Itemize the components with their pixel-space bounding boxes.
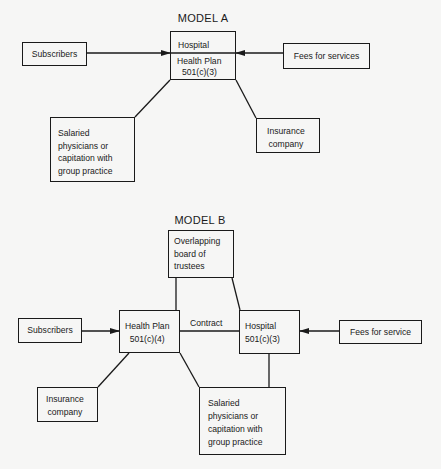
model-b-health-plan-box: Health Plan 501(c)(4)	[119, 310, 180, 353]
insurance-label: Insurance company	[46, 393, 84, 418]
model-b-fees-box: Fees for service	[339, 320, 422, 344]
model-a-title: MODEL A	[178, 12, 229, 24]
model-b-subscribers-box: Subscribers	[18, 318, 82, 343]
health-plan-label: Health Plan	[177, 56, 221, 67]
salaried-label: Salaried physicians or capitation with g…	[208, 397, 262, 449]
model-b-hospital-box: Hospital 501(c)(3)	[239, 310, 300, 354]
model-b-salaried-box: Salaried physicians or capitation with g…	[199, 387, 286, 455]
hospital-label: Hospital 501(c)(3)	[245, 320, 280, 345]
fees-label: Fees for service	[350, 327, 411, 338]
insurance-label: Insurance company	[267, 125, 305, 150]
model-b-title: MODEL B	[174, 214, 225, 226]
contract-label: Contract	[190, 318, 222, 328]
trustees-label: Overlapping board of trustees	[174, 235, 220, 273]
model-a-hospital-healthplan-box: Hospital Health Plan 501(c)(3)	[170, 31, 236, 80]
model-b-insurance-box: Insurance company	[37, 387, 98, 422]
health-plan-label: Health Plan 501(c)(4)	[125, 320, 169, 345]
hospital-label: Hospital	[178, 40, 209, 51]
model-a-salaried-box: Salaried physicians or capitation with g…	[50, 117, 135, 182]
model-a-subscribers-box: Subscribers	[22, 42, 87, 66]
salaried-label: Salaried physicians or capitation with g…	[58, 127, 112, 177]
tax-status-label: 501(c)(3)	[182, 67, 217, 78]
subscribers-label: Subscribers	[27, 325, 72, 336]
fees-label: Fees for services	[294, 51, 359, 62]
subscribers-label: Subscribers	[32, 49, 77, 60]
model-a-fees-box: Fees for services	[283, 43, 370, 69]
model-a-insurance-box: Insurance company	[256, 118, 320, 153]
model-b-trustees-box: Overlapping board of trustees	[168, 230, 234, 278]
